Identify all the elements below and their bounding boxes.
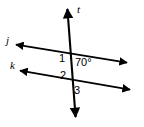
line-label-k: k [10,60,15,71]
angle-label-1: 1 [59,53,65,64]
geometry-diagram-canvas [0,0,144,127]
angle-measure-70-degrees: 70° [75,57,92,68]
line-label-j: j [6,35,9,46]
angle-label-3: 3 [74,85,80,96]
angle-label-2: 2 [60,70,66,81]
line-label-t: t [77,4,80,15]
geometry-figure: t j k 1 70° 2 3 [0,0,144,127]
